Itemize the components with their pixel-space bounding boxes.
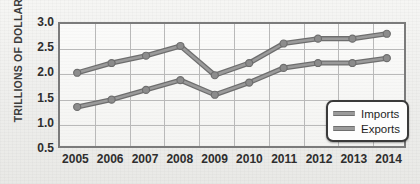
data-point-marker: [74, 69, 81, 76]
data-point-marker: [142, 86, 149, 93]
y-axis-tick-label: 3.0: [22, 15, 54, 29]
y-axis-tick-labels: 3.02.52.01.51.00.5: [22, 22, 54, 148]
legend-item-exports: Exports: [333, 121, 400, 136]
legend-item-imports: Imports: [333, 106, 400, 121]
legend-label-imports: Imports: [361, 108, 399, 120]
data-point-marker: [74, 103, 81, 110]
data-point-marker: [246, 79, 253, 86]
data-point-marker: [280, 64, 287, 71]
data-point-marker: [108, 96, 115, 103]
data-point-marker: [211, 91, 218, 98]
legend-swatch-icon: [333, 111, 355, 116]
data-point-marker: [246, 60, 253, 67]
legend-label-exports: Exports: [361, 123, 400, 135]
y-axis-tick-label: 2.5: [22, 40, 54, 54]
data-point-marker: [280, 40, 287, 47]
y-axis-tick-label: 1.0: [22, 116, 54, 130]
data-point-marker: [177, 42, 184, 49]
chart-legend: Imports Exports: [326, 100, 409, 142]
data-point-marker: [177, 77, 184, 84]
trade-line-chart: TRILLIONS OF DOLLARS 3.02.52.01.51.00.5 …: [0, 0, 420, 184]
data-point-marker: [142, 52, 149, 59]
y-axis-tick-label: 0.5: [22, 141, 54, 155]
legend-swatch-icon: [333, 126, 355, 131]
x-axis-tick-label: 2014: [366, 152, 412, 166]
y-axis-tick-label: 2.0: [22, 65, 54, 79]
data-point-marker: [314, 60, 321, 67]
y-axis-tick-label: 1.5: [22, 91, 54, 105]
data-point-marker: [383, 30, 390, 37]
data-point-marker: [349, 60, 356, 67]
data-point-marker: [108, 60, 115, 67]
x-axis-tick-labels: 2005200620072008200920102011201220132014: [58, 152, 406, 174]
data-point-marker: [349, 35, 356, 42]
data-point-marker: [211, 72, 218, 79]
data-point-marker: [314, 35, 321, 42]
data-point-marker: [383, 55, 390, 62]
